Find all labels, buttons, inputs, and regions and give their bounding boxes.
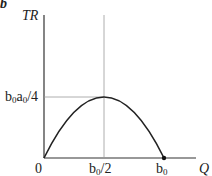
tr-chart: b: [0, 0, 212, 176]
y-tick-b0a0-quarter: b0a0/4: [5, 90, 38, 107]
origin-label: 0: [35, 162, 42, 176]
panel-label: b: [0, 0, 7, 11]
x-tick-b0-half: b0/2: [89, 162, 111, 176]
b0-point: [162, 156, 166, 160]
x-tick-b0: b0: [156, 162, 168, 176]
y-axis-label: TR: [22, 9, 38, 23]
x-axis-label: Q: [199, 162, 209, 176]
